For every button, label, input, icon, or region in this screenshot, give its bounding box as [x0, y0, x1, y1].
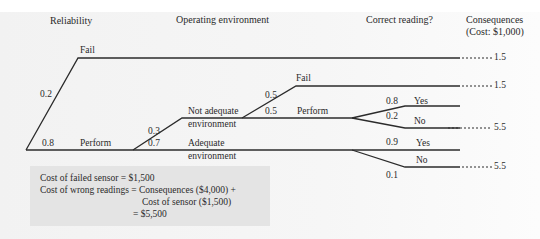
consequence-value-4: 5.5 [494, 161, 506, 172]
branch-a-reading-no [352, 150, 460, 167]
label-na-fail: Fail [296, 73, 311, 84]
label-reliability-perform: Perform [80, 138, 111, 149]
label-reliability-fail: Fail [80, 45, 95, 56]
branch-na-reading-yes [352, 106, 460, 118]
header-consequences: Consequences [466, 14, 523, 26]
header-operating-environment: Operating environment [176, 14, 269, 26]
label-a-reading-no: No [416, 155, 428, 166]
prob-na-perform: 0.5 [265, 106, 277, 117]
note-sensor-cost: Cost of sensor ($1,500) [142, 197, 231, 208]
header-consequences-unit: (Cost: $1,000) [466, 26, 524, 38]
decision-tree-diagram: Reliability Operating environment Correc… [0, 0, 540, 239]
prob-env-not-adequate: 0.3 [148, 126, 160, 137]
label-env-not-adequate-2: environment [188, 119, 236, 130]
prob-a-reading-yes: 0.9 [386, 137, 398, 148]
prob-reliability-fail: 0.2 [40, 89, 52, 100]
label-env-adequate: Adequate [188, 138, 224, 149]
header-correct-reading: Correct reading? [366, 14, 433, 26]
label-na-perform: Perform [297, 106, 328, 117]
label-a-reading-yes: Yes [416, 138, 430, 149]
prob-a-reading-no: 0.1 [386, 170, 398, 181]
consequence-value-2: 1.5 [494, 80, 506, 91]
prob-na-reading-no: 0.2 [386, 111, 398, 122]
note-total-cost: = $5,500 [133, 209, 167, 220]
label-env-not-adequate: Not adequate [188, 106, 238, 117]
note-wrong-readings-cost: Cost of wrong readings = Consequences ($… [40, 185, 236, 196]
note-failed-sensor-cost: Cost of failed sensor = $1,500 [40, 173, 155, 184]
prob-reliability-perform: 0.8 [42, 138, 54, 149]
prob-na-reading-yes: 0.8 [386, 96, 398, 107]
label-na-reading-no: No [414, 116, 426, 127]
cost-notes-box: Cost of failed sensor = $1,500 Cost of w… [30, 166, 270, 226]
prob-env-adequate: 0.7 [148, 138, 160, 149]
header-reliability: Reliability [50, 15, 92, 27]
consequence-value-1: 1.5 [494, 52, 506, 63]
label-na-reading-yes: Yes [414, 96, 428, 107]
prob-na-fail: 0.5 [265, 90, 277, 101]
branch-na-reading-no [352, 118, 460, 128]
consequence-value-3: 5.5 [494, 122, 506, 133]
label-env-adequate-2: environment [188, 151, 236, 162]
